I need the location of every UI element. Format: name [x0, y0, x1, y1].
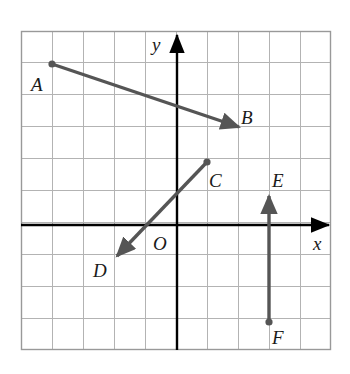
point-dot-a	[48, 60, 55, 67]
origin-label: O	[153, 234, 167, 253]
point-label-b: B	[241, 108, 253, 127]
point-label-d: D	[93, 261, 107, 280]
coordinate-grid-figure: A B C D E F O x y	[0, 0, 350, 374]
point-dot-c	[203, 158, 210, 165]
point-label-e: E	[272, 171, 284, 190]
point-dot-f	[265, 318, 272, 325]
point-label-a: A	[31, 75, 43, 94]
coordinate-plot	[0, 0, 350, 374]
x-axis-label: x	[313, 234, 321, 253]
y-axis-label: y	[152, 35, 160, 54]
point-label-f: F	[272, 328, 284, 347]
point-label-c: C	[209, 171, 222, 190]
